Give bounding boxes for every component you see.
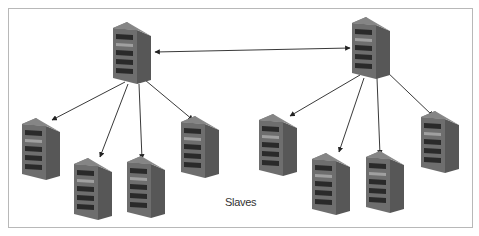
slave-server [421,111,459,173]
master-server-left [113,22,151,84]
master-link-arrow [155,48,350,52]
slave-server [181,116,219,178]
slave-server [22,118,60,180]
slaves-caption: Slaves [225,196,256,208]
slave-server [259,114,297,176]
slave-server [74,158,112,220]
slave-server [127,156,165,218]
master-server-right [352,17,390,79]
slave-server [366,151,404,213]
slave-server [312,153,350,215]
